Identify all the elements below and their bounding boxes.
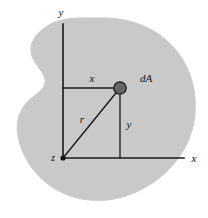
area-element-label: dA [140,72,153,84]
origin-dot [60,155,65,160]
irregular-area-region [17,18,195,201]
x-dimension-label: x [89,72,95,84]
y-axis-label: y [58,6,64,18]
r-dimension-label: r [80,113,85,125]
area-element-marker [114,82,126,94]
figure-container: y x z x y r dA [0,0,208,218]
y-dimension-label: y [126,118,132,130]
x-axis-label: x [191,152,197,164]
origin-label: z [50,153,55,163]
area-moment-diagram: y x z x y r dA [0,0,208,218]
